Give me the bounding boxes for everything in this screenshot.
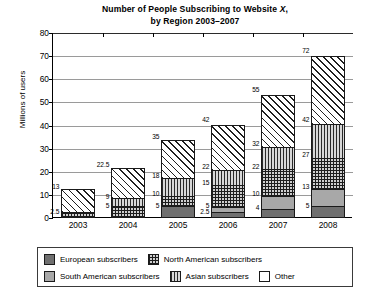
- bar-value-label: 13: [52, 183, 59, 190]
- bar-value-label: 9: [106, 193, 110, 200]
- legend-swatch-other-icon: [259, 271, 270, 282]
- legend-row-2: South American subscribersAsian subscrib…: [44, 268, 346, 285]
- bar-segment-north[interactable]: [261, 169, 295, 197]
- bar-segment-asian[interactable]: [261, 147, 295, 170]
- bar-segment-asian[interactable]: [111, 198, 145, 207]
- y-tick-label: 50: [40, 97, 49, 107]
- bar-segment-other[interactable]: [311, 56, 345, 125]
- y-tick-label: 10: [40, 190, 49, 200]
- bar-series-group: 2.5135922.551018352.55152242410223255513…: [53, 32, 353, 217]
- bar-segment-north[interactable]: [311, 158, 345, 190]
- bar-value-label: 32: [252, 140, 259, 147]
- legend-label: North American subscribers: [164, 255, 262, 264]
- bar-segment-other[interactable]: [111, 168, 145, 199]
- x-tick-mark: [303, 33, 304, 37]
- bar-value-label: 27: [302, 151, 309, 158]
- stacked-bar[interactable]: [311, 51, 345, 218]
- legend-label: European subscribers: [60, 255, 138, 264]
- bar-segment-european[interactable]: [261, 209, 295, 218]
- bar-value-label: 2.5: [50, 208, 59, 215]
- legend-row-1: European subscribersNorth American subsc…: [44, 251, 346, 268]
- bar-value-label: 55: [252, 86, 259, 93]
- stacked-bar[interactable]: [111, 165, 145, 217]
- stacked-bar[interactable]: [261, 90, 295, 217]
- legend-item-south[interactable]: South American subscribers: [44, 271, 160, 282]
- bar-segment-european[interactable]: [161, 206, 195, 218]
- chart-legend: European subscribersNorth American subsc…: [37, 247, 353, 287]
- bar-segment-north[interactable]: [211, 185, 245, 208]
- stacked-bar[interactable]: [161, 136, 195, 217]
- bar-value-label: 35: [152, 133, 159, 140]
- bar-segment-asian[interactable]: [161, 178, 195, 197]
- legend-swatch-asian-icon: [170, 271, 181, 282]
- legend-item-european[interactable]: European subscribers: [44, 254, 138, 265]
- legend-swatch-south-icon: [44, 271, 55, 282]
- bar-value-label: 4: [256, 204, 260, 211]
- bar-segment-south[interactable]: [311, 189, 345, 208]
- bar-segment-other[interactable]: [161, 140, 195, 179]
- stacked-bar[interactable]: [61, 187, 95, 217]
- x-tick-mark: [253, 33, 254, 37]
- chart-page: Number of People Subscribing to Website …: [0, 0, 390, 303]
- bar-value-label: 5: [156, 202, 160, 209]
- bar-segment-asian[interactable]: [211, 170, 245, 186]
- bar-value-label: 22: [202, 163, 209, 170]
- legend-item-north[interactable]: North American subscribers: [148, 254, 262, 265]
- y-tick-label: 80: [40, 28, 49, 38]
- bar-segment-other[interactable]: [61, 189, 95, 213]
- legend-item-other[interactable]: Other: [259, 271, 295, 282]
- bar-value-label: 10: [252, 190, 259, 197]
- x-tick-label: 2008: [298, 220, 358, 230]
- bar-value-label: 42: [302, 116, 309, 123]
- legend-label: South American subscribers: [60, 272, 160, 281]
- x-tick-mark: [153, 33, 154, 37]
- plot-area: 01020304050607080 2.5135922.551018352.55…: [52, 33, 352, 218]
- y-tick-label: 30: [40, 144, 49, 154]
- y-tick-mark: [49, 218, 53, 219]
- legend-item-asian[interactable]: Asian subscribers: [170, 271, 249, 282]
- bar-value-label: 5: [206, 202, 210, 209]
- y-axis-label: Millions of users: [18, 40, 27, 160]
- y-tick-label: 20: [40, 167, 49, 177]
- bar-value-label: 5: [306, 202, 310, 209]
- stacked-bar[interactable]: [211, 120, 245, 217]
- bar-segment-european[interactable]: [311, 206, 345, 218]
- x-tick-mark: [203, 33, 204, 37]
- legend-swatch-north-icon: [148, 254, 159, 265]
- bar-segment-north[interactable]: [161, 196, 195, 208]
- bar-segment-north[interactable]: [111, 206, 145, 218]
- bar-value-label: 22: [252, 163, 259, 170]
- y-tick-label: 40: [40, 121, 49, 131]
- bar-value-label: 5: [106, 202, 110, 209]
- bar-value-label: 13: [302, 183, 309, 190]
- x-tick-mark: [103, 33, 104, 37]
- bar-value-label: 22.5: [97, 161, 110, 168]
- y-tick-label: 60: [40, 74, 49, 84]
- bar-segment-other[interactable]: [211, 125, 245, 171]
- bar-segment-south[interactable]: [261, 196, 295, 210]
- legend-swatch-european-icon: [44, 254, 55, 265]
- bar-value-label: 72: [302, 47, 309, 54]
- bar-value-label: 18: [152, 172, 159, 179]
- bar-segment-asian[interactable]: [311, 124, 345, 159]
- legend-label: Other: [275, 272, 295, 281]
- legend-label: Asian subscribers: [186, 272, 249, 281]
- bar-value-label: 10: [152, 190, 159, 197]
- bar-value-label: 15: [202, 179, 209, 186]
- bar-value-label: 42: [202, 116, 209, 123]
- y-tick-label: 70: [40, 51, 49, 61]
- bar-segment-other[interactable]: [261, 95, 295, 148]
